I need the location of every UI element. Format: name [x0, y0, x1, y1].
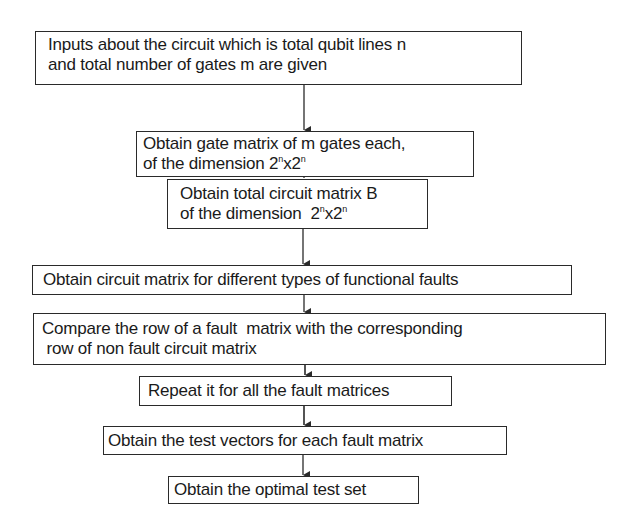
step-fault-circuit-matrices: Obtain circuit matrix for different type…: [32, 265, 572, 295]
step-compare-rows-line-1: Compare the row of a fault matrix with t…: [42, 319, 599, 339]
step-compare-rows-line-2: row of non fault circuit matrix: [42, 339, 599, 359]
step-inputs: Inputs about the circuit which is total …: [35, 31, 522, 85]
step-inputs-line-2: and total number of gates m are given: [48, 55, 515, 75]
step-gate-matrix-line-2: of the dimension 2nx2n: [143, 154, 467, 174]
step-total-circuit-matrix-line-1: Obtain total circuit matrix B: [180, 184, 421, 204]
step-test-vectors-line-1: Obtain the test vectors for each fault m…: [108, 431, 500, 451]
step-optimal-test-set: Obtain the optimal test set: [168, 476, 419, 504]
step-gate-matrix-line-1: Obtain gate matrix of m gates each,: [143, 134, 467, 154]
step-total-circuit-matrix-line-2: of the dimension 2nx2n: [180, 204, 421, 224]
step-total-circuit-matrix: Obtain total circuit matrix B of the dim…: [167, 179, 428, 229]
step-compare-rows: Compare the row of a fault matrix with t…: [33, 313, 606, 365]
step-optimal-test-set-line-1: Obtain the optimal test set: [174, 480, 412, 500]
step-repeat-line-1: Repeat it for all the fault matrices: [148, 381, 445, 401]
step-fault-circuit-matrices-line-1: Obtain circuit matrix for different type…: [43, 270, 565, 290]
step-gate-matrix: Obtain gate matrix of m gates each, of t…: [136, 131, 474, 177]
step-inputs-line-1: Inputs about the circuit which is total …: [48, 35, 515, 55]
step-test-vectors: Obtain the test vectors for each fault m…: [103, 426, 507, 455]
flowchart: Inputs about the circuit which is total …: [0, 0, 628, 522]
step-repeat: Repeat it for all the fault matrices: [139, 376, 452, 406]
